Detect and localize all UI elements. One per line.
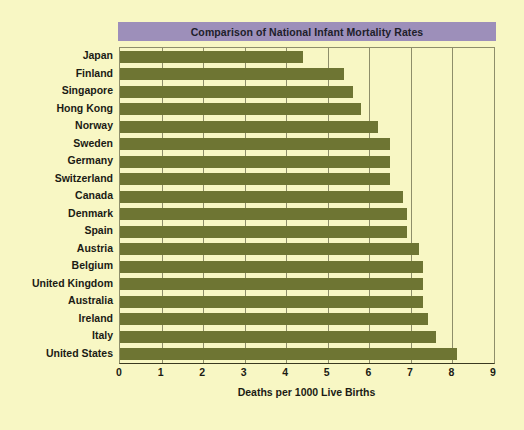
y-axis-label: Sweden [0, 138, 113, 149]
y-axis-label: Italy [0, 330, 113, 341]
bar-row [120, 66, 494, 84]
y-axis-label: United Kingdom [0, 278, 113, 289]
x-axis-tick-label: 1 [149, 366, 173, 378]
bar [120, 208, 407, 220]
y-axis-label: Austria [0, 243, 113, 254]
x-axis-tick-label: 6 [356, 366, 380, 378]
bar-row [120, 188, 494, 206]
bar-row [120, 206, 494, 224]
bar [120, 156, 390, 168]
bar-row [120, 223, 494, 241]
bar [120, 51, 303, 63]
bar-row [120, 241, 494, 259]
bar-row [120, 83, 494, 101]
bar [120, 243, 419, 255]
chart-title-banner: Comparison of National Infant Mortality … [118, 22, 496, 41]
x-axis-tick-label: 7 [398, 366, 422, 378]
x-axis-tick-label: 8 [439, 366, 463, 378]
y-axis-label: Denmark [0, 208, 113, 219]
y-axis-label: Japan [0, 50, 113, 61]
y-axis-label: Ireland [0, 313, 113, 324]
bar [120, 226, 407, 238]
y-axis-label: Spain [0, 225, 113, 236]
x-axis-title: Deaths per 1000 Live Births [119, 386, 494, 398]
bar [120, 103, 361, 115]
x-axis-tick-label: 2 [190, 366, 214, 378]
bar-row [120, 346, 494, 364]
x-axis-tick-label: 5 [315, 366, 339, 378]
bar [120, 191, 403, 203]
bar-row [120, 171, 494, 189]
bar-row [120, 258, 494, 276]
x-axis-tick-labels: 0123456789 [0, 366, 524, 380]
x-axis-tick-label: 4 [273, 366, 297, 378]
bar-row [120, 136, 494, 154]
y-axis-label: Singapore [0, 85, 113, 96]
bar-row [120, 311, 494, 329]
bar-row [120, 101, 494, 119]
bar [120, 173, 390, 185]
y-axis-label: Norway [0, 120, 113, 131]
plot-area [119, 47, 495, 364]
x-axis-tick-label: 3 [232, 366, 256, 378]
y-axis-category-labels: JapanFinlandSingaporeHong KongNorwaySwed… [0, 47, 113, 362]
y-axis-label: Belgium [0, 260, 113, 271]
bar-row [120, 328, 494, 346]
y-axis-label: Germany [0, 155, 113, 166]
bar [120, 68, 344, 80]
y-axis-label: Finland [0, 68, 113, 79]
bar [120, 313, 428, 325]
bar-row [120, 48, 494, 66]
x-axis-tick-label: 0 [107, 366, 131, 378]
y-axis-label: Canada [0, 190, 113, 201]
bar [120, 331, 436, 343]
bar-row [120, 276, 494, 294]
bar [120, 138, 390, 150]
y-axis-label: Switzerland [0, 173, 113, 184]
bar [120, 348, 457, 360]
y-axis-label: Hong Kong [0, 103, 113, 114]
bar [120, 121, 378, 133]
bar [120, 296, 423, 308]
bar [120, 86, 353, 98]
bar-row [120, 153, 494, 171]
infant-mortality-bar-chart: Comparison of National Infant Mortality … [0, 0, 524, 430]
bar [120, 261, 423, 273]
bar [120, 278, 423, 290]
y-axis-label: Australia [0, 295, 113, 306]
chart-title: Comparison of National Infant Mortality … [191, 26, 424, 38]
bar-row [120, 293, 494, 311]
y-axis-label: United States [0, 348, 113, 359]
bar-series [120, 48, 494, 363]
bar-row [120, 118, 494, 136]
x-axis-tick-label: 9 [481, 366, 505, 378]
